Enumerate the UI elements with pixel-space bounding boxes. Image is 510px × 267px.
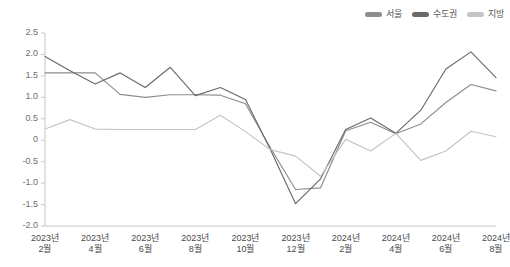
x-tick-label: 2023년8월 — [169, 233, 221, 255]
x-tick-year: 2024년 — [370, 233, 422, 244]
x-tick-year: 2023년 — [19, 233, 71, 244]
x-tick-label: 2023년12월 — [270, 233, 322, 255]
x-tick-month: 6월 — [420, 244, 472, 255]
x-tick-label: 2024년4월 — [370, 233, 422, 255]
x-tick-month: 12월 — [270, 244, 322, 255]
x-tick-label: 2024년2월 — [320, 233, 372, 255]
x-tick-month: 2월 — [19, 244, 71, 255]
x-tick-month: 4월 — [69, 244, 121, 255]
x-tick-month: 6월 — [119, 244, 171, 255]
x-tick-label: 2023년6월 — [119, 233, 171, 255]
x-tick-label: 2024년6월 — [420, 233, 472, 255]
x-tick-label: 2023년10월 — [219, 233, 271, 255]
x-tick-month: 8월 — [169, 244, 221, 255]
x-tick-year: 2024년 — [420, 233, 472, 244]
x-tick-year: 2023년 — [69, 233, 121, 244]
x-tick-month: 8월 — [470, 244, 510, 255]
x-tick-year: 2023년 — [270, 233, 322, 244]
x-tick-year: 2024년 — [470, 233, 510, 244]
x-tick-label: 2023년4월 — [69, 233, 121, 255]
x-tick-month: 4월 — [370, 244, 422, 255]
x-tick-year: 2024년 — [320, 233, 372, 244]
chart-container: 서울수도권지방 2.52.01.51.00.50-0.5-1.0-1.5-2.0… — [0, 0, 510, 267]
x-tick-month: 10월 — [219, 244, 271, 255]
x-tick-label: 2023년2월 — [19, 233, 71, 255]
x-tick-year: 2023년 — [219, 233, 271, 244]
x-tick-year: 2023년 — [119, 233, 171, 244]
x-tick-label: 2024년8월 — [470, 233, 510, 255]
x-tick-month: 2월 — [320, 244, 372, 255]
x-tick-year: 2023년 — [169, 233, 221, 244]
x-axis-labels: 2023년2월2023년4월2023년6월2023년8월2023년10월2023… — [0, 0, 510, 267]
